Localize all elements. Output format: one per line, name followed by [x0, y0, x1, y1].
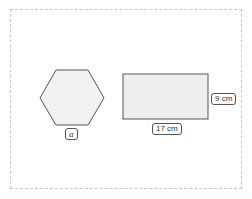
- rectangle-shape: [123, 74, 208, 119]
- hexagon-shape: [40, 70, 104, 125]
- rectangle-height-label: 9 cm: [211, 93, 236, 105]
- rectangle-width-label: 17 cm: [152, 123, 182, 135]
- hexagon-side-label: a: [65, 128, 78, 140]
